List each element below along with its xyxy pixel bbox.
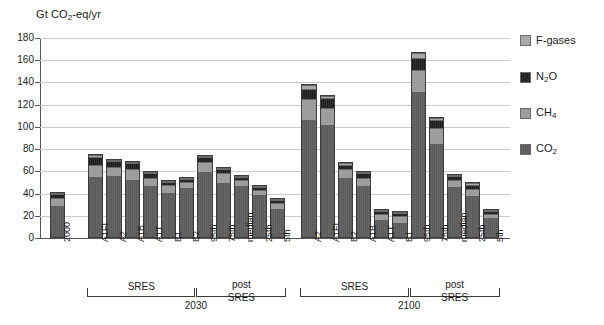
bar-segment-co2 <box>180 188 193 237</box>
bar-segment-co2 <box>412 92 425 237</box>
bar-segment-ch4 <box>144 178 157 187</box>
bar-a2-12[interactable] <box>301 84 316 238</box>
y-axis-tick <box>35 38 40 39</box>
bar-a1fi-13[interactable] <box>320 95 335 238</box>
x-axis-tick-label: A2 <box>313 231 323 242</box>
bar-segment-ch4 <box>321 108 334 126</box>
x-axis-tick-label: 2000 <box>62 222 72 242</box>
y-axis-tick <box>35 238 40 239</box>
bar-segment-ch4 <box>357 178 370 187</box>
y-axis-tick <box>35 127 40 128</box>
legend-item-n2o: N2O <box>520 70 557 84</box>
bar-segment-ch4 <box>339 169 352 178</box>
x-axis-tick-label: 75th <box>440 224 450 242</box>
x-axis-tick-label: 25th <box>264 224 274 242</box>
bar-segment-ch4 <box>466 189 479 196</box>
y-axis-tick-label: 160 <box>0 55 34 65</box>
x-axis-tick-label: B1 <box>404 231 414 242</box>
bracket-label-post-2100: post <box>415 279 495 290</box>
y-axis-line <box>40 38 41 239</box>
bar-75th-19[interactable] <box>429 117 444 238</box>
bar-segment-ch4 <box>107 167 120 177</box>
bracket-label-post-2030: post <box>201 279 281 290</box>
bar-segment-ch4 <box>126 169 139 180</box>
y-axis-tick-label: 60 <box>0 166 34 176</box>
x-axis-tick-label: median <box>245 212 255 242</box>
group-year-label-2030: 2030 <box>166 300 226 311</box>
x-axis-tick-label: 95th <box>422 224 432 242</box>
bar-segment-ch4 <box>217 173 230 183</box>
bar-segment-co2 <box>430 144 443 237</box>
x-axis-tick-label: B2 <box>349 231 359 242</box>
x-axis-tick-label: A1FI <box>331 223 341 242</box>
y-axis-tick-label: 20 <box>0 211 34 221</box>
x-axis-tick-label: 95th <box>209 224 219 242</box>
bar-segment-co2 <box>321 125 334 237</box>
y-axis-tick <box>35 216 40 217</box>
legend-item-ch4: CH4 <box>520 106 556 120</box>
x-axis-tick-label: B1 <box>173 231 183 242</box>
bar-segment-ch4 <box>162 185 175 192</box>
bar-segment-ch4 <box>430 128 443 144</box>
legend-swatch-co2-icon <box>520 144 531 155</box>
y-axis-tick <box>35 105 40 106</box>
bar-segment-ch4 <box>198 162 211 172</box>
legend-item-co2: CO2 <box>520 142 557 156</box>
bar-95th-18[interactable] <box>411 52 426 238</box>
bar-segment-ch4 <box>412 70 425 92</box>
legend-swatch-f-gases-icon <box>520 35 531 46</box>
legend-label-ch4: CH4 <box>536 106 556 120</box>
legend-label-f-gases: F-gases <box>536 34 576 46</box>
bar-segment-n2o <box>302 89 315 99</box>
y-axis-tick-label: 180 <box>0 33 34 43</box>
gridline <box>40 38 510 39</box>
x-axis-tick-label: A1B <box>368 225 378 242</box>
x-axis-tick-label: A1FI <box>100 223 110 242</box>
y-axis-tick <box>35 149 40 150</box>
x-axis-tick-label: B2 <box>191 231 201 242</box>
y-axis-tick <box>35 171 40 172</box>
gridline <box>40 82 510 83</box>
x-axis-tick-label: 75th <box>227 224 237 242</box>
bar-segment-ch4 <box>448 180 461 188</box>
bar-segment-n2o <box>89 157 102 165</box>
bar-segment-n2o <box>321 98 334 108</box>
y-axis-tick <box>35 60 40 61</box>
bracket-label-sres-2100: SRES <box>315 281 395 292</box>
gridline <box>40 105 510 106</box>
bar-segment-n2o <box>412 58 425 70</box>
y-axis-tick-label: 40 <box>0 189 34 199</box>
group-year-label-2100: 2100 <box>379 300 439 311</box>
y-axis-tick-label: 120 <box>0 100 34 110</box>
y-axis-tick-label: 140 <box>0 77 34 87</box>
bracket-label-sres-2030: SRES <box>101 281 181 292</box>
x-axis-tick-label: A1T <box>386 225 396 242</box>
x-axis-tick-label: 5th <box>495 229 505 242</box>
plot-area: 020406080100120140160180 <box>40 38 510 238</box>
legend-item-f-gases: F-gases <box>520 34 576 46</box>
y-axis-tick <box>35 82 40 83</box>
legend-swatch-n2o-icon <box>520 72 531 83</box>
y-axis-tick-label: 80 <box>0 144 34 154</box>
legend-swatch-ch4-icon <box>520 108 531 119</box>
x-axis-tick-label: 25th <box>477 224 487 242</box>
bar-segment-co2 <box>302 120 315 237</box>
legend-label-n2o: N2O <box>536 70 557 84</box>
x-axis-tick-label: A1B <box>136 225 146 242</box>
bar-segment-ch4 <box>89 165 102 177</box>
chart-figure: Gt CO2-eq/yr 020406080100120140160180 F-… <box>0 0 604 325</box>
y-axis-title: Gt CO2-eq/yr <box>36 8 101 22</box>
bar-b2-6[interactable] <box>179 177 194 238</box>
x-axis-tick-label: median <box>459 212 469 242</box>
y-axis-tick-label: 0 <box>0 233 34 243</box>
y-axis-tick <box>35 194 40 195</box>
y-axis-tick-label: 100 <box>0 122 34 132</box>
x-axis-tick-label: A2 <box>118 231 128 242</box>
bar-segment-ch4 <box>51 198 64 206</box>
gridline <box>40 60 510 61</box>
bar-segment-n2o <box>430 120 443 128</box>
x-axis-tick-label: A1T <box>154 225 164 242</box>
legend-label-co2: CO2 <box>536 142 557 156</box>
x-axis-tick-label: 5th <box>282 229 292 242</box>
bar-segment-ch4 <box>302 99 315 120</box>
